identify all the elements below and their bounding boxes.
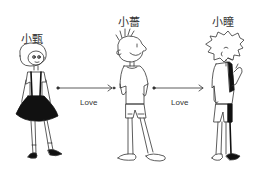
girl-figure — [16, 43, 62, 158]
arrow-middle-to-right — [153, 85, 203, 91]
name-label-left: 小甄 — [21, 30, 43, 46]
edge-label-middle-right: Love — [171, 98, 188, 107]
arrow-left-to-middle — [57, 85, 115, 91]
edge-label-left-middle: Love — [80, 98, 97, 107]
love-diagram: 小甄 小薔 小瞳 Love Love — [0, 0, 261, 180]
spiky-hair-boy-figure — [116, 29, 165, 161]
name-label-middle: 小薔 — [118, 13, 140, 29]
messy-hair-boy-figure — [206, 31, 244, 160]
name-label-right: 小瞳 — [212, 13, 234, 29]
